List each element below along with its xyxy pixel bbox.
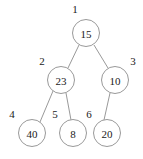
tree-node-2: 23 bbox=[48, 67, 75, 94]
tree-index-labels-group: 123456 bbox=[9, 3, 136, 120]
tree-node-4: 40 bbox=[19, 120, 46, 147]
tree-node-3: 10 bbox=[102, 67, 129, 94]
node-index-label-1: 1 bbox=[72, 3, 78, 15]
node-value-6: 20 bbox=[102, 128, 114, 140]
node-index-label-5: 5 bbox=[52, 108, 58, 120]
tree-edge-1-to-2 bbox=[68, 45, 79, 68]
node-index-label-3: 3 bbox=[130, 55, 136, 67]
tree-nodes-group: 15231040820 bbox=[19, 20, 129, 147]
binary-tree-diagram: 15231040820 123456 bbox=[0, 0, 143, 159]
tree-node-6: 20 bbox=[94, 120, 121, 147]
tree-edge-2-to-4 bbox=[40, 91, 53, 122]
node-value-4: 40 bbox=[27, 128, 39, 140]
node-value-3: 10 bbox=[110, 75, 122, 87]
node-index-label-6: 6 bbox=[86, 108, 92, 120]
node-value-5: 8 bbox=[70, 128, 76, 140]
tree-canvas: 15231040820 123456 bbox=[0, 0, 143, 159]
node-value-1: 15 bbox=[81, 28, 93, 40]
tree-edge-1-to-3 bbox=[94, 45, 108, 68]
tree-edge-2-to-5 bbox=[66, 93, 71, 120]
node-index-label-2: 2 bbox=[39, 55, 45, 67]
node-index-label-4: 4 bbox=[9, 108, 15, 120]
tree-edge-3-to-6 bbox=[104, 93, 110, 120]
node-value-2: 23 bbox=[56, 75, 68, 87]
tree-node-5: 8 bbox=[60, 120, 87, 147]
tree-node-1: 15 bbox=[73, 20, 100, 47]
